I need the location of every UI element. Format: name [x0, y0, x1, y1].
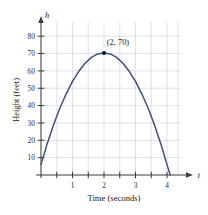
x-axis-title: Time (seconds): [88, 193, 141, 203]
vertex-point-marker: [102, 51, 106, 55]
x-tick-label: 2: [102, 181, 106, 190]
y-axis-variable-label: h: [45, 11, 49, 20]
vertex-point-label: (2, 70): [107, 38, 130, 47]
y-tick-label: 20: [28, 136, 36, 145]
y-tick-label: 60: [28, 67, 36, 76]
x-tick-label: 4: [165, 181, 169, 190]
y-tick-label: 80: [28, 32, 36, 41]
y-tick-label: 70: [28, 49, 36, 58]
y-tick-label: 40: [28, 101, 36, 110]
parabola-chart: 10 20 30 40 50 60 70 80 1 2 3 4 h t Time…: [0, 0, 208, 215]
x-tick-label: 3: [134, 181, 138, 190]
y-tick-label: 30: [28, 119, 36, 128]
y-tick-label: 50: [28, 84, 36, 93]
y-tick-label: 10: [28, 153, 36, 162]
y-axis-title: Height (feet): [11, 78, 21, 122]
x-tick-label: 1: [71, 181, 75, 190]
chart-figure: 10 20 30 40 50 60 70 80 1 2 3 4 h t Time…: [0, 0, 208, 215]
